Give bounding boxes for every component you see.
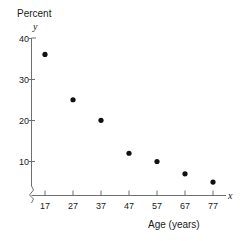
data-point bbox=[126, 151, 131, 156]
y-axis bbox=[28, 38, 36, 203]
plot-area bbox=[0, 0, 243, 241]
x-axis bbox=[32, 191, 227, 196]
scatter-plot-figure: Percent y Age (years) x 40 30 20 10 17 2… bbox=[0, 0, 243, 241]
data-point bbox=[70, 97, 75, 102]
data-point-group bbox=[42, 52, 215, 185]
data-point bbox=[182, 171, 187, 176]
data-point bbox=[98, 118, 103, 123]
y-axis-break-icon bbox=[30, 186, 34, 203]
data-point bbox=[210, 179, 215, 184]
data-point bbox=[42, 52, 47, 57]
data-point bbox=[154, 159, 159, 164]
